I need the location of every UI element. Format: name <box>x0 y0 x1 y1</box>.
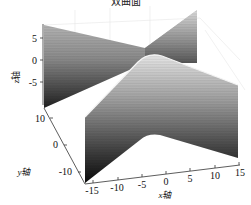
x-tick-label: -15 <box>85 185 98 196</box>
surface-plot: 双曲面 <box>0 0 251 205</box>
x-tick-label: -5 <box>138 179 146 190</box>
y-tick-label: -10 <box>59 166 72 177</box>
x-tick-label: 15 <box>235 167 245 178</box>
y-axis-label: y轴 <box>17 167 32 177</box>
z-tick-label: 0 <box>32 55 37 66</box>
y-tick-label: 10 <box>35 113 45 124</box>
z-axis-label: z轴 <box>10 71 21 84</box>
chart-title: 双曲面 <box>0 0 251 8</box>
x-tick-label: 10 <box>210 170 220 181</box>
x-tick-label: 0 <box>164 176 169 187</box>
y-tick-label: 0 <box>53 139 58 150</box>
x-tick-label: 5 <box>188 173 193 184</box>
plot-canvas: 5 0 -5 z轴 10 0 -10 y轴 -15 -10 -5 0 5 10 … <box>0 0 251 205</box>
x-axis-label: x轴 <box>158 190 173 200</box>
z-tick-label: -5 <box>29 77 37 88</box>
z-tick-label: 5 <box>32 33 37 44</box>
x-tick-label: -10 <box>110 182 123 193</box>
